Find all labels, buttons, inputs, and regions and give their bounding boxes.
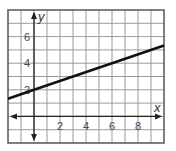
y-tick-label: 6	[24, 31, 30, 43]
coordinate-plane: 2468246 x y	[0, 0, 176, 151]
y-axis-down-arrow-icon	[31, 134, 37, 141]
y-axis-up-arrow-icon	[31, 12, 37, 19]
y-axis-label: y	[37, 9, 46, 24]
x-tick-label: 6	[109, 120, 115, 132]
x-tick-label: 8	[135, 120, 141, 132]
x-tick-label: 4	[83, 120, 89, 132]
y-tick-label: 4	[24, 57, 30, 69]
x-axis-left-arrow-icon	[10, 113, 17, 119]
tick-labels: 2468246	[24, 31, 141, 133]
x-axis-label: x	[153, 100, 161, 115]
x-tick-label: 2	[57, 120, 63, 132]
